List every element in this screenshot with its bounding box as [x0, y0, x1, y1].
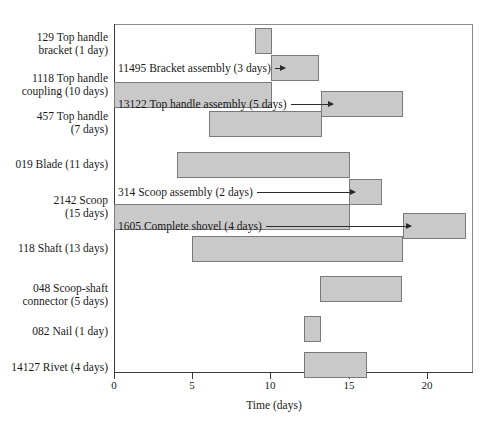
inline-label-text-13122: 13122 Top handle assembly (5 days): [118, 98, 287, 110]
bar-1605-complete-shovel: [403, 213, 466, 239]
leader-arrow-11495-icon: [275, 68, 285, 69]
inline-label-text-314: 314 Scoop assembly (2 days): [118, 186, 253, 198]
row-label-129-top-handle-bracket: 129 Top handle bracket (1 day): [0, 31, 108, 57]
x-tick-label-15: 15: [344, 379, 355, 391]
leader-arrow-1605-icon: [266, 226, 411, 227]
inline-label-1605-complete-shovel: 1605 Complete shovel (4 days): [118, 219, 411, 233]
row-label-1118-top-handle-coupling: 1118 Top handle coupling (10 days): [0, 72, 108, 98]
y-axis-line: [114, 24, 115, 373]
bar-082-nail: [304, 316, 321, 342]
bar-019-blade: [177, 152, 350, 178]
gantt-chart-figure: 0 5 10 15 20 Time (days) 129 Top handle …: [0, 0, 492, 436]
x-tick-label-0: 0: [111, 379, 117, 391]
row-label-14127-rivet: 14127 Rivet (4 days): [0, 361, 108, 374]
bar-14127-rivet: [304, 352, 367, 378]
leader-arrow-13122-icon: [291, 104, 333, 105]
row-label-048-scoop-shaft-connector: 048 Scoop-shaft connector (5 days): [0, 282, 108, 308]
inline-label-13122-top-handle-assembly: 13122 Top handle assembly (5 days): [118, 97, 333, 111]
bar-129-top-handle-bracket: [255, 28, 272, 54]
row-label-082-nail: 082 Nail (1 day): [0, 325, 108, 338]
inline-label-text-11495: 11495 Bracket assembly (3 days): [118, 62, 271, 74]
x-tick-label-10: 10: [265, 379, 276, 391]
x-tick-label-5: 5: [189, 379, 195, 391]
page-top-artifact: [0, 0, 492, 10]
row-label-118-shaft: 118 Shaft (13 days): [0, 242, 108, 255]
x-axis-title-text: Time (days): [246, 399, 301, 411]
x-axis-line: [114, 372, 473, 373]
inline-label-11495-bracket-assembly: 11495 Bracket assembly (3 days): [118, 61, 285, 75]
bar-457-top-handle: [209, 111, 322, 137]
inline-label-text-1605: 1605 Complete shovel (4 days): [118, 220, 262, 232]
bar-048-scoop-shaft-connector: [320, 276, 402, 302]
x-axis-title: Time (days): [0, 399, 492, 411]
bar-118-shaft: [192, 236, 403, 262]
x-tick-label-20: 20: [422, 379, 433, 391]
inline-label-314-scoop-assembly: 314 Scoop assembly (2 days): [118, 185, 355, 199]
leader-arrow-314-icon: [257, 192, 355, 193]
row-label-019-blade: 019 Blade (11 days): [0, 158, 108, 171]
row-label-457-top-handle: 457 Top handle (7 days): [0, 110, 108, 136]
row-label-2142-scoop: 2142 Scoop (15 days): [0, 194, 108, 220]
